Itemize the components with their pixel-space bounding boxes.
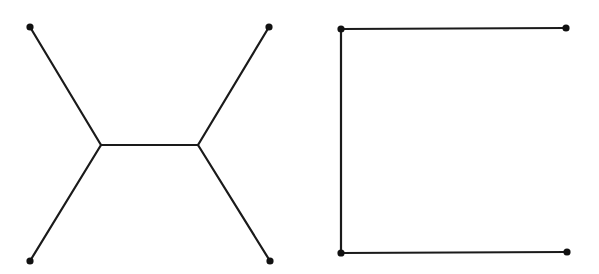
diagram-canvas xyxy=(0,0,599,274)
terminal-node xyxy=(26,257,33,264)
terminal-node xyxy=(26,23,33,30)
edge xyxy=(30,145,101,261)
edge xyxy=(341,252,567,253)
edge xyxy=(198,145,270,261)
steiner-tree-h-shape xyxy=(26,23,273,264)
terminal-node xyxy=(265,23,272,30)
edge xyxy=(30,27,101,145)
spanning-tree-bracket xyxy=(337,24,570,256)
terminal-node xyxy=(337,249,344,256)
terminal-node xyxy=(562,24,569,31)
terminal-node xyxy=(337,25,344,32)
edge xyxy=(341,28,566,29)
edge xyxy=(198,27,269,145)
terminal-node xyxy=(266,257,273,264)
graphs-group xyxy=(26,23,570,264)
diagram-svg xyxy=(0,0,599,274)
terminal-node xyxy=(563,248,570,255)
